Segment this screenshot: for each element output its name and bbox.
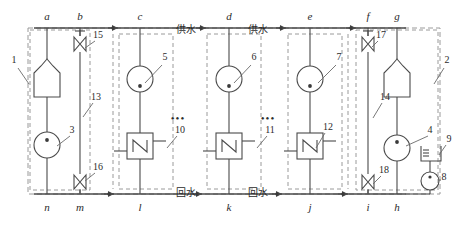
reference-number-16: 16 — [93, 161, 103, 172]
substation-divider-left — [113, 34, 348, 189]
valve-15-symbol — [74, 30, 86, 51]
return-water-label-1: 回水 — [176, 187, 196, 198]
make-up-pump-symbol — [421, 172, 439, 190]
bottom-node-label-k: k — [227, 201, 233, 213]
continuation-ellipsis-2: ••• — [261, 112, 276, 124]
supply-water-label-2: 供水 — [248, 23, 268, 35]
radiator-l-symbol — [114, 133, 166, 159]
top-node-label-a: a — [44, 10, 50, 22]
radiator-j-symbol — [284, 133, 336, 159]
bottom-node-label-l: l — [138, 201, 141, 213]
left-circulation-pump-dot — [45, 138, 49, 142]
bottom-node-label-h: h — [394, 201, 400, 213]
left-circulation-pump-symbol — [34, 132, 60, 158]
pump-d-dot — [227, 84, 231, 88]
return-water-label-2: 回水 — [248, 187, 268, 198]
right-circulation-pump-dot — [395, 140, 399, 144]
bottom-node-label-j: j — [306, 201, 311, 213]
continuation-ellipsis-1: ••• — [171, 112, 186, 124]
reference-number-5: 5 — [163, 51, 168, 62]
reference-number-15: 15 — [93, 29, 103, 40]
pump-e-symbol — [297, 66, 323, 92]
top-node-label-g: g — [394, 10, 400, 22]
pump-c-dot — [138, 84, 142, 88]
pump-e-dot — [308, 84, 312, 88]
reference-number-9: 9 — [447, 133, 452, 144]
header-junction-dots — [107, 26, 352, 195]
top-node-label-b: b — [77, 10, 83, 22]
reference-number-7: 7 — [337, 51, 342, 62]
leader-lines — [18, 41, 446, 184]
diagram-canvas: abcdefgnmlkjih12345678910111213141516171… — [0, 0, 468, 227]
reference-number-17: 17 — [376, 29, 386, 40]
reference-number-11: 11 — [265, 124, 275, 135]
substation-box-e — [288, 34, 342, 189]
reference-number-1: 1 — [12, 54, 17, 65]
reference-number-12: 12 — [323, 121, 333, 132]
radiator-k-symbol — [203, 133, 255, 159]
left-boiler-group-box — [30, 30, 90, 190]
reference-number-10: 10 — [175, 124, 185, 135]
bottom-node-label-n: n — [44, 201, 50, 213]
heating-system-diagram: abcdefgnmlkjih12345678910111213141516171… — [0, 0, 468, 227]
reference-number-2: 2 — [445, 54, 450, 65]
left-boiler-symbol — [34, 59, 60, 97]
make-up-pump-dot — [428, 175, 431, 178]
reference-number-8: 8 — [442, 171, 447, 182]
reference-number-13: 13 — [91, 91, 101, 102]
bottom-node-label-i: i — [366, 201, 369, 213]
reference-number-6: 6 — [252, 51, 257, 62]
top-node-label-f: f — [366, 10, 371, 22]
supply-water-label-1: 供水 — [176, 23, 196, 35]
reference-number-3: 3 — [70, 124, 75, 135]
reference-number-18: 18 — [379, 164, 389, 175]
reference-number-14: 14 — [380, 91, 390, 102]
top-node-label-c: c — [138, 10, 143, 22]
right-circulation-pump-symbol — [384, 135, 410, 161]
top-node-label-e: e — [308, 10, 313, 22]
bottom-node-label-m: m — [76, 201, 84, 213]
top-node-label-d: d — [226, 10, 232, 22]
valve-17-symbol — [362, 30, 374, 51]
reference-number-4: 4 — [428, 124, 433, 135]
